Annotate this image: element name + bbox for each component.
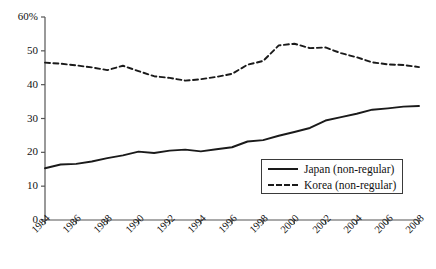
chart-legend: Japan (non-regular) Korea (non-regular) bbox=[261, 159, 403, 194]
legend-label-japan: Japan (non-regular) bbox=[304, 163, 394, 175]
y-tick-label: 30 bbox=[27, 113, 38, 124]
legend-line-dashed-icon bbox=[268, 180, 298, 190]
y-tick-label: 40 bbox=[27, 79, 38, 90]
y-tick-label: 50 bbox=[27, 45, 38, 56]
legend-item-japan: Japan (non-regular) bbox=[268, 161, 394, 177]
legend-label-korea: Korea (non-regular) bbox=[304, 179, 396, 191]
legend-line-solid-icon bbox=[268, 164, 298, 174]
data-series-group bbox=[45, 44, 419, 169]
y-tick-label: 10 bbox=[27, 180, 38, 191]
series-line-korea bbox=[45, 44, 419, 81]
y-tick-label: 20 bbox=[27, 146, 38, 157]
y-tick-label: 60% bbox=[18, 11, 38, 22]
line-chart-figure: 0102030405060% 1984198619881990199219941… bbox=[0, 0, 436, 269]
legend-item-korea: Korea (non-regular) bbox=[268, 177, 396, 193]
